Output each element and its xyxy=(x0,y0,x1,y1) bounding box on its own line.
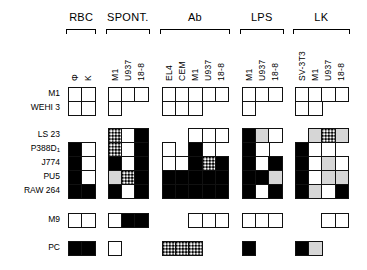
grid-cell xyxy=(81,241,95,256)
column-label-rbc-0: Φ xyxy=(70,74,80,81)
column-label-ab-1: CEM xyxy=(177,61,187,81)
grid-cell xyxy=(268,156,282,171)
column-label-ab-4: 18-8 xyxy=(216,63,226,81)
group-label-ab: Ab xyxy=(156,11,234,23)
row-label-text: M9 xyxy=(48,214,60,224)
grid-cell xyxy=(308,241,322,256)
grid-cell xyxy=(215,87,229,102)
grid-cell xyxy=(268,184,282,199)
row-label-subscript: 1 xyxy=(57,147,60,153)
grid-cell xyxy=(81,213,95,228)
group-label-lps: LPS xyxy=(236,11,288,23)
row-label: J774 xyxy=(42,157,60,167)
row-label-text: PU5 xyxy=(43,171,60,181)
grid-cell xyxy=(81,142,95,157)
row-label-text: M1 xyxy=(48,88,60,98)
column-label-ab-2: M1 xyxy=(190,69,200,81)
grid-cell xyxy=(321,142,335,157)
row-label: RAW 264 xyxy=(24,185,60,195)
grid-cell xyxy=(81,87,95,102)
grid-cell xyxy=(335,156,349,171)
grid-cell xyxy=(162,142,176,157)
column-label-lps-1: U937 xyxy=(257,59,267,81)
row-label: WEHI 3 xyxy=(31,102,60,112)
column-label-spont-2: 18-8 xyxy=(136,63,146,81)
group-bracket-spont xyxy=(106,29,150,34)
group-bracket-rbc xyxy=(66,29,96,34)
grid-cell xyxy=(134,170,148,185)
grid-cell xyxy=(134,142,148,157)
grid-cell xyxy=(81,170,95,185)
grid-cell xyxy=(215,156,229,171)
grid-cell xyxy=(335,170,349,185)
grid-cell xyxy=(242,101,256,116)
grid-cell xyxy=(335,87,349,102)
grid-cell xyxy=(268,128,282,143)
grid-cell xyxy=(81,184,95,199)
grid-cell xyxy=(215,170,229,185)
grid-cell xyxy=(268,213,282,228)
column-label-lk-2: U937 xyxy=(323,59,333,81)
group-bracket-lps xyxy=(240,29,284,34)
row-label-text: P388D xyxy=(31,143,57,153)
grid-cell xyxy=(134,213,148,228)
column-label-lk-3: 18-8 xyxy=(336,63,346,81)
column-label-lk-0: SV-3T3 xyxy=(297,51,307,81)
column-label-lps-0: M1 xyxy=(244,69,254,81)
grid-cell xyxy=(215,128,229,143)
row-label: M1 xyxy=(48,88,60,98)
group-bracket-lk xyxy=(293,29,350,34)
column-label-spont-1: U937 xyxy=(123,59,133,81)
grid-cell xyxy=(134,87,148,102)
row-label-text: RAW 264 xyxy=(24,185,60,195)
row-label: M9 xyxy=(48,214,60,224)
grid-cell xyxy=(202,142,216,157)
grid-cell xyxy=(134,184,148,199)
grid-cell xyxy=(81,156,95,171)
row-label: PC xyxy=(48,242,60,252)
group-label-rbc: RBC xyxy=(62,11,100,23)
row-label: PU5 xyxy=(43,171,60,181)
column-label-spont-0: M1 xyxy=(110,69,120,81)
grid-cell xyxy=(335,128,349,143)
grid-cell xyxy=(108,241,122,256)
column-label-ab-3: U937 xyxy=(203,59,213,81)
column-label-rbc-1: K xyxy=(83,75,93,81)
group-bracket-ab xyxy=(160,29,230,34)
grid-cell xyxy=(335,184,349,199)
grid-cell xyxy=(255,142,269,157)
grid-cell xyxy=(188,241,202,256)
grid-cell xyxy=(308,101,322,116)
row-label-text: LS 23 xyxy=(38,129,60,139)
grid-cell xyxy=(81,101,95,116)
grid-cell xyxy=(215,184,229,199)
row-label-text: PC xyxy=(48,242,60,252)
row-label: P388D1 xyxy=(31,143,60,153)
row-label: LS 23 xyxy=(38,129,60,139)
column-label-lk-1: M1 xyxy=(310,69,320,81)
grid-cell xyxy=(188,101,202,116)
group-label-spont: SPONT. xyxy=(102,11,154,23)
column-label-ab-0: EL4 xyxy=(164,65,174,81)
grid-cell xyxy=(242,241,256,256)
grid-cell xyxy=(268,87,282,102)
grid-cell xyxy=(108,101,122,116)
column-label-lps-2: 18-8 xyxy=(270,63,280,81)
grid-cell xyxy=(215,213,229,228)
grid-cell xyxy=(268,170,282,185)
grid-cell xyxy=(134,156,148,171)
grid-cell xyxy=(335,213,349,228)
group-label-lk: LK xyxy=(289,11,354,23)
row-label-text: WEHI 3 xyxy=(31,102,60,112)
grid-cell xyxy=(134,128,148,143)
row-label-text: J774 xyxy=(42,157,60,167)
